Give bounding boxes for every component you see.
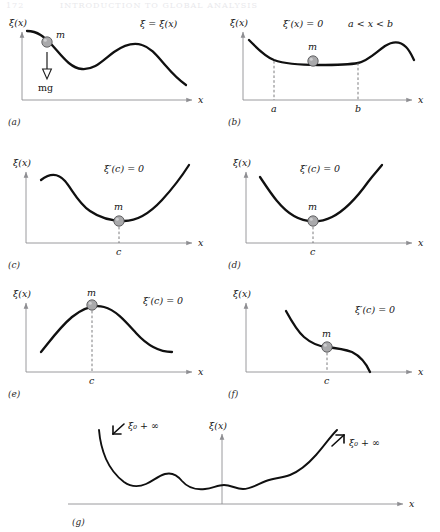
panel-g-tag: (g) <box>72 517 85 527</box>
panel-d-tick-label-c: c <box>310 246 316 257</box>
panel-b-tick-label-a: a <box>271 103 277 114</box>
panel-g-right-arrow-icon <box>332 435 344 446</box>
panel-b-y-axis-label: ξ(x) <box>230 17 248 28</box>
figure-root: 172 Introduction to Global Analysis ξ(x)… <box>0 0 440 532</box>
panel-c-mass-label: m <box>114 201 123 212</box>
panel-g-annotation-right: ξ₀ + ∞ <box>349 437 380 448</box>
panel-f-y-axis-label: ξ(x) <box>233 288 251 299</box>
panel-g-y-axis-label: ξ(x) <box>209 420 227 431</box>
panel-a-tag: (a) <box>8 117 21 127</box>
panel-a-mass-label: m <box>56 29 65 40</box>
panel-c-equation-0: ξ′(c) = 0 <box>104 163 144 174</box>
panel-e-mass-label: m <box>87 287 96 298</box>
panel-a-y-axis-label: ξ(x) <box>9 17 27 28</box>
panel-f-x-axis-label: x <box>418 366 424 377</box>
panel-b-equation-1: a < x < b <box>348 18 393 29</box>
panel-e-mass-marker <box>87 300 97 310</box>
panel-e-tag: (e) <box>8 389 21 399</box>
panel-b-x-axis-label: x <box>418 94 424 105</box>
panel-a-force-arrow <box>43 52 52 79</box>
panel-b-tick-label-b: b <box>355 103 361 114</box>
panel-f-mass-marker <box>322 342 332 352</box>
panel-d-mass-marker <box>308 216 318 226</box>
panel-a-equation-0: ξ = ξ(x) <box>140 18 178 29</box>
panel-a-mass-marker <box>42 37 52 47</box>
figure-svg: ξ(x) x m mg ξ = ξ(x) (a) ξ(x) x <box>0 0 440 532</box>
panel-a-force-label: mg <box>38 82 53 93</box>
panel-d-tag: (d) <box>228 260 241 270</box>
panel-a-x-axis-label: x <box>198 94 204 105</box>
panel-f-equation-0: ξ′(c) = 0 <box>355 304 395 315</box>
panel-b: ξ(x) x a b m ξ′(x) = 0 a < x < b (b) <box>228 17 424 127</box>
panel-c: ξ(x) x c m ξ′(c) = 0 (c) <box>8 157 204 270</box>
panel-c-x-axis-label: x <box>198 237 204 248</box>
panel-e-y-axis-label: ξ(x) <box>13 288 31 299</box>
panel-c-y-axis-label: ξ(x) <box>13 157 31 168</box>
panel-g-curve <box>99 430 337 489</box>
panel-g-x-axis-label: x <box>409 498 415 509</box>
panel-f-mass-label: m <box>322 328 331 339</box>
panel-b-mass-label: m <box>308 41 317 52</box>
panel-d: ξ(x) x c m ξ′(c) = 0 (d) <box>228 157 424 270</box>
panel-d-equation-0: ξ′(c) = 0 <box>300 163 340 174</box>
panel-f: ξ(x) x c m ξ′(c) = 0 (f) <box>228 288 424 399</box>
panel-g-annotation-left: ξ₀ + ∞ <box>128 420 159 431</box>
panel-d-mass-label: m <box>308 201 317 212</box>
panel-a: ξ(x) x m mg ξ = ξ(x) (a) <box>8 17 204 127</box>
panel-g: ξ(x) x ξ₀ + ∞ ξ₀ + ∞ (g) <box>68 420 415 527</box>
panel-e-tick-label-c: c <box>89 375 95 386</box>
panel-d-y-axis-label: ξ(x) <box>233 157 251 168</box>
panel-e-curve <box>41 306 172 352</box>
panel-e-x-axis-label: x <box>198 366 204 377</box>
panel-b-equation-0: ξ′(x) = 0 <box>283 18 323 29</box>
panel-e-equation-0: ξ′(c) = 0 <box>143 295 183 306</box>
panel-b-tag: (b) <box>228 117 241 127</box>
panel-c-tick-label-c: c <box>116 246 122 257</box>
panel-c-mass-marker <box>114 216 124 226</box>
panel-f-tag: (f) <box>228 389 239 399</box>
panel-f-tick-label-c: c <box>324 375 330 386</box>
panel-c-tag: (c) <box>8 260 21 270</box>
panel-g-left-arrow-icon <box>113 424 124 434</box>
panel-e: ξ(x) x c m ξ′(c) = 0 (e) <box>8 287 204 399</box>
panel-b-mass-marker <box>308 56 318 66</box>
panel-d-x-axis-label: x <box>418 237 424 248</box>
